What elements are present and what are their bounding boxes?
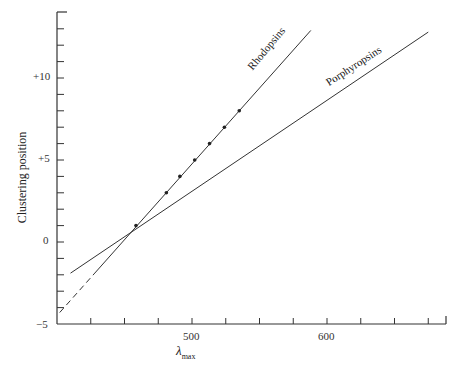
x-tick-label-500: 500 <box>183 330 200 342</box>
y-tick-label-10: +10 <box>33 70 50 82</box>
x-axis-title: λmax <box>176 343 195 361</box>
x-axis-subscript: max <box>182 352 196 361</box>
y-tick-label-minus-5: −5 <box>36 318 48 330</box>
chart-canvas <box>0 0 458 370</box>
y-axis-title: Clustering position <box>15 118 30 238</box>
x-tick-label-600: 600 <box>318 330 335 342</box>
y-tick-label-5: +5 <box>38 152 50 164</box>
series-lines <box>60 30 429 312</box>
y-tick-label-0: 0 <box>43 234 49 246</box>
